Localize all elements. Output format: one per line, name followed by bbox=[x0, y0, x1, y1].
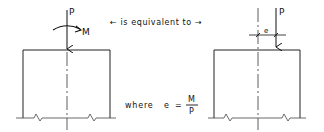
left-column-block bbox=[16, 50, 116, 130]
formula-prefix: where bbox=[125, 101, 154, 110]
formula-denominator: P bbox=[189, 107, 194, 116]
equivalence-text: ← is equivalent to → bbox=[110, 18, 202, 27]
left-force-label: P bbox=[69, 7, 75, 17]
eccentricity-label: e bbox=[264, 27, 268, 35]
equivalence-diagram: P M ← is equivalent to → P e where e = M… bbox=[0, 0, 324, 132]
right-break-line bbox=[208, 114, 306, 121]
left-axial-load bbox=[53, 10, 81, 49]
left-break-line bbox=[16, 114, 116, 121]
moment-label: M bbox=[82, 27, 90, 37]
formula-lhs: e bbox=[164, 101, 169, 110]
formula-numerator: M bbox=[188, 95, 195, 104]
formula-equals: = bbox=[175, 101, 182, 110]
right-force-label: P bbox=[279, 7, 285, 17]
formula: where e = M P bbox=[125, 95, 198, 116]
right-column-block bbox=[208, 8, 306, 130]
